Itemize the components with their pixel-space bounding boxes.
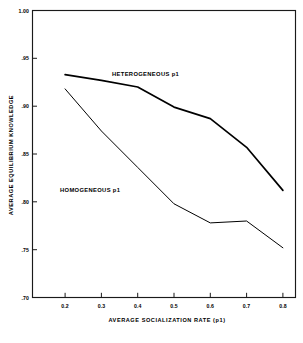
series-label-homogeneous: HOMOGENEOUS p1 bbox=[60, 187, 121, 193]
y-tick-label-0.75: .75 bbox=[21, 247, 29, 253]
chart-background bbox=[0, 0, 303, 343]
series-label-heterogeneous: HETEROGENEOUS p1 bbox=[112, 71, 180, 77]
x-tick-label-0.5: 0.5 bbox=[170, 303, 178, 309]
y-tick-label-0.70: .70 bbox=[21, 295, 29, 301]
x-tick-label-0.6: 0.6 bbox=[207, 303, 215, 309]
y-tick-label-0.80: .80 bbox=[21, 199, 29, 205]
x-tick-label-0.8: 0.8 bbox=[279, 303, 287, 309]
x-tick-label-0.2: 0.2 bbox=[61, 303, 69, 309]
y-tick-label-0.90: .90 bbox=[21, 103, 29, 109]
line-chart-svg: 1.00 .95 .90 .85 .80 .75 .70 0.2 0.3 0.4… bbox=[0, 0, 303, 343]
y-axis-title: AVERAGE EQUILIBRIUM KNOWLEDGE bbox=[8, 95, 14, 215]
y-tick-label-0.85: .85 bbox=[21, 151, 29, 157]
x-axis-title: AVERAGE SOCIALIZATION RATE (p1) bbox=[108, 317, 225, 323]
y-tick-label-0.95: .95 bbox=[21, 55, 29, 61]
x-tick-label-0.7: 0.7 bbox=[243, 303, 251, 309]
x-tick-label-0.4: 0.4 bbox=[134, 303, 142, 309]
x-tick-label-0.3: 0.3 bbox=[98, 303, 106, 309]
chart-figure: 1.00 .95 .90 .85 .80 .75 .70 0.2 0.3 0.4… bbox=[0, 0, 303, 343]
y-tick-label-1.00: 1.00 bbox=[19, 8, 30, 14]
